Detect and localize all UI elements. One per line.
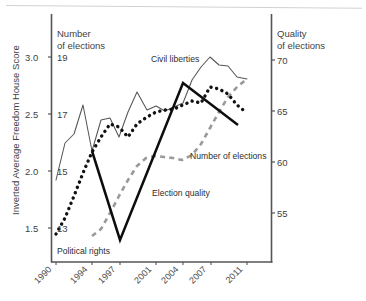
inner-ytick-label-19: 19 (57, 52, 68, 63)
inner-ytick-label-13: 13 (57, 223, 68, 234)
right-axis-header-line2: of elections (277, 40, 325, 51)
ytick-label-1-5: 1.5 (25, 223, 38, 234)
right-axis-header-line1: Quality (277, 28, 307, 39)
right-ytick-label-60: 60 (277, 157, 288, 168)
xtick-label-2007: 2007 (187, 264, 208, 285)
inner-ytick-label-15: 15 (57, 166, 68, 177)
ytick-label-2-5: 2.5 (25, 109, 38, 120)
y-axis-title: Inverted Average Freedom House Score (10, 45, 21, 215)
inner-ytick-label-17: 17 (57, 109, 68, 120)
xtick-label-2004: 2004 (159, 264, 180, 285)
left-axis-header-line2: of elections (57, 40, 105, 51)
series-label-number-of-elections: Number of elections (190, 151, 266, 161)
series-label-election-quality: Election quality (152, 188, 211, 198)
series-election-quality (92, 83, 238, 240)
chart-svg: 3.0 2.5 2.0 1.5 19 17 15 13 70 65 60 55 … (0, 0, 366, 301)
xtick-label-2001: 2001 (132, 264, 153, 285)
right-ytick-label-65: 65 (277, 106, 288, 117)
series-label-political-rights: Political rights (57, 246, 110, 256)
x-axis-tick-labels: 1990 1994 1997 2001 2004 2007 2011 (32, 264, 244, 285)
xtick-label-1997: 1997 (96, 264, 117, 285)
chart-figure: 3.0 2.5 2.0 1.5 19 17 15 13 70 65 60 55 … (0, 0, 366, 301)
xtick-label-2011: 2011 (224, 264, 245, 285)
xtick-label-1994: 1994 (68, 264, 89, 285)
right-ytick-label-55: 55 (277, 208, 288, 219)
xtick-label-1990: 1990 (32, 264, 53, 285)
series-label-civil-liberties: Civil liberties (151, 54, 199, 64)
ytick-label-3-0: 3.0 (25, 52, 38, 63)
ytick-label-2-0: 2.0 (25, 166, 38, 177)
left-axis-header-line1: Number (57, 28, 91, 39)
right-ytick-label-70: 70 (277, 55, 288, 66)
